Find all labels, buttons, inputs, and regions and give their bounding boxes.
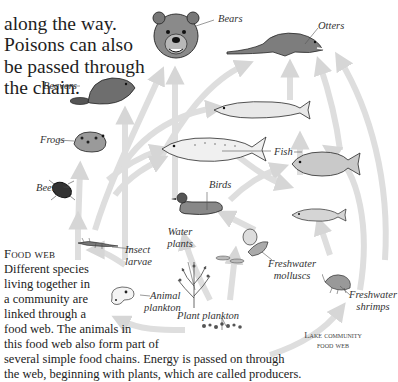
food-web-caption: Food web Different species living togeth…: [4, 247, 301, 382]
caption-line: linked through a: [4, 307, 301, 322]
label-water-plants-line1: Water: [162, 226, 198, 238]
label-beavers: Beavers: [43, 80, 77, 92]
label-shrimps-line1: Freshwater: [348, 289, 398, 301]
diagram-title-line1: Lake community: [278, 330, 388, 340]
label-shrimps-line2: shrimps: [348, 301, 398, 313]
label-bears: Bears: [218, 13, 243, 25]
label-frogs: Frogs: [40, 134, 65, 146]
label-birds: Birds: [209, 179, 231, 191]
caption-line: this food web also form part of: [4, 337, 301, 352]
caption-title: Food web: [4, 247, 301, 262]
diagram-title: Lake community food web: [278, 330, 388, 350]
label-beetles: Beetles: [36, 182, 66, 194]
caption-line: a community are: [4, 292, 301, 307]
label-otters: Otters: [318, 20, 344, 32]
caption-line: living together in: [4, 277, 301, 292]
caption-line: the web, beginning with plants, which ar…: [4, 367, 301, 382]
label-freshwater-shrimps: Freshwater shrimps: [348, 289, 398, 313]
caption-line: Different species: [4, 262, 301, 277]
caption-line: food web. The animals in: [4, 322, 301, 337]
diagram-title-line2: food web: [278, 340, 388, 350]
label-fish: Fish: [274, 146, 293, 158]
caption-line: several simple food chains. Energy is pa…: [4, 352, 301, 367]
